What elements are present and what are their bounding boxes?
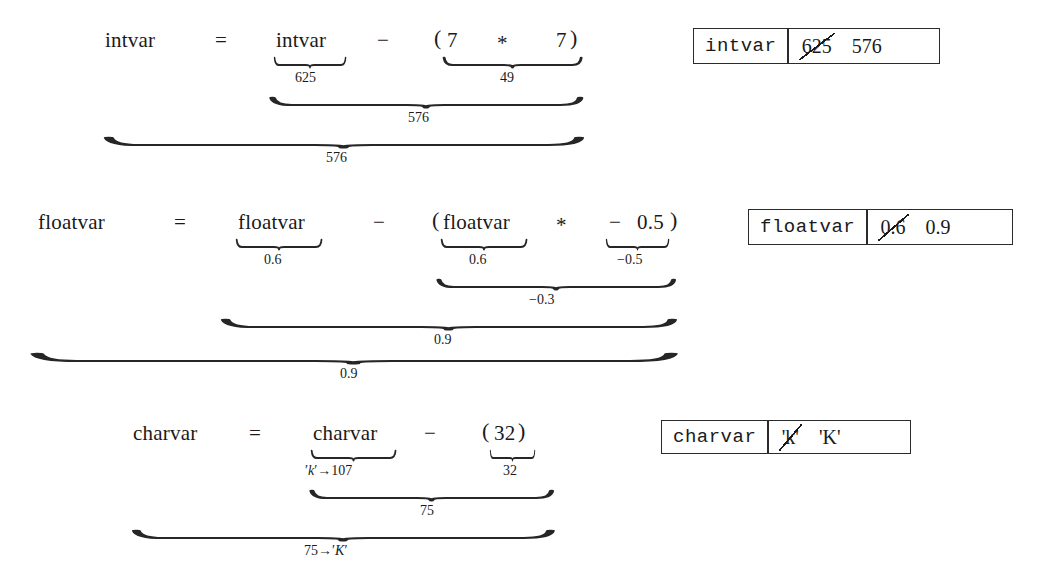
equals-sign: =: [215, 28, 227, 53]
minus-operator: −: [373, 210, 385, 235]
variable-name-cell: intvar: [694, 29, 787, 63]
underbrace-label-inner-product: 49: [500, 70, 514, 86]
old-value-struck: 0.6: [881, 216, 906, 239]
variable-values-cell: 'k' 'K': [769, 421, 854, 453]
underbrace-label-operand-a: ′k′→107: [305, 463, 352, 479]
underbrace-operand-a: [274, 57, 346, 68]
variable-state-box-charvar: charvar 'k' 'K': [661, 420, 911, 454]
new-value: 0.9: [926, 216, 951, 239]
underbrace-rhs: [222, 319, 675, 330]
underbrace-inner-right: [606, 239, 669, 250]
underbrace-label-operand-a: 625: [295, 70, 316, 86]
old-value-struck: 625: [802, 35, 832, 58]
equals-sign: =: [249, 421, 261, 446]
prime-close: ′: [344, 543, 347, 558]
char-literal-K: K: [335, 543, 344, 558]
underbrace-rhs: [310, 490, 553, 501]
underbrace-total: [105, 137, 582, 148]
underbrace-label-rhs: 0.9: [434, 332, 452, 348]
close-paren: ): [518, 418, 526, 444]
variable-state-box-floatvar: floatvar 0.6 0.9: [748, 209, 1013, 245]
underbrace-label-inner-product: −0.3: [529, 292, 554, 308]
underbrace-operand-a: [236, 239, 322, 250]
underbrace-operand-a: [311, 450, 396, 461]
underbrace-label-inner-left: 0.6: [469, 252, 487, 268]
arrow-to-code: →107: [317, 463, 352, 478]
arrow-to-char: →: [318, 543, 332, 558]
underbrace-inner-product: [443, 57, 582, 68]
underbrace-label-rhs: 576: [408, 110, 429, 126]
underbrace-total: [32, 353, 675, 364]
variable-name-cell: charvar: [662, 421, 767, 453]
equals-sign: =: [174, 210, 186, 235]
underbrace-label-rhs: 75: [420, 503, 434, 519]
underbrace-inner-left: [441, 239, 527, 250]
inner-multiply-operator: *: [556, 213, 567, 238]
underbrace-rhs: [270, 97, 582, 108]
inner-right-number: 0.5: [637, 210, 664, 235]
open-paren: (: [432, 207, 440, 233]
old-value-struck: 'k': [782, 426, 799, 449]
operand-a: floatvar: [238, 210, 305, 235]
inner-left-operand: 32: [494, 421, 515, 446]
underbrace-label-inner-right: −0.5: [617, 252, 642, 268]
inner-right-operand: 7: [556, 28, 567, 53]
underbrace-label-total: 576: [326, 150, 347, 166]
lhs-variable: floatvar: [38, 210, 105, 235]
variable-values-cell: 0.6 0.9: [868, 210, 964, 244]
inner-right-sign: −: [609, 210, 621, 235]
new-value: 'K': [819, 426, 841, 449]
minus-operator: −: [377, 28, 389, 53]
variable-state-box-intvar: intvar 625 576: [693, 28, 940, 64]
underbrace-label-inner-literal: 32: [503, 463, 517, 479]
operand-a: intvar: [276, 28, 326, 53]
lhs-variable: charvar: [133, 421, 197, 446]
inner-left-operand: floatvar: [443, 210, 510, 235]
inner-left-operand: 7: [447, 28, 458, 53]
variable-name-cell: floatvar: [749, 210, 866, 244]
underbrace-label-total: 0.9: [340, 366, 358, 382]
underbrace-total: [133, 530, 553, 541]
result-number: 75: [304, 543, 318, 558]
underbrace-label-total: 75→′K′: [304, 543, 347, 559]
open-paren: (: [482, 418, 490, 444]
underbrace-label-operand-a: 0.6: [264, 252, 282, 268]
lhs-variable: intvar: [105, 28, 155, 53]
close-paren: ): [670, 207, 678, 233]
minus-operator: −: [424, 421, 436, 446]
underbrace-inner-product: [437, 279, 675, 290]
close-paren: ): [570, 25, 578, 51]
operand-a: charvar: [313, 421, 377, 446]
new-value: 576: [852, 35, 882, 58]
variable-values-cell: 625 576: [789, 29, 895, 63]
underbrace-inner-literal: [490, 450, 535, 461]
inner-multiply-operator: *: [497, 31, 508, 56]
open-paren: (: [434, 25, 442, 51]
